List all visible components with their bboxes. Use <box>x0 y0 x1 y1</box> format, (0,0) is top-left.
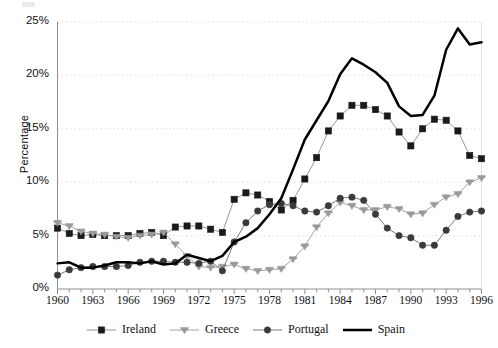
data-point <box>384 113 390 119</box>
x-tick-label: 1996 <box>462 294 498 306</box>
x-tick-label: 1978 <box>250 294 290 306</box>
data-point <box>243 220 249 226</box>
data-point <box>419 242 425 248</box>
data-point <box>396 232 402 238</box>
data-point <box>420 126 426 132</box>
x-tick-label: 1972 <box>179 294 219 306</box>
x-tick-label: 1981 <box>285 294 325 306</box>
x-tick-label: 1987 <box>356 294 396 306</box>
data-point <box>442 195 450 201</box>
data-point <box>172 224 178 230</box>
data-point <box>278 207 284 213</box>
data-point <box>325 128 331 134</box>
y-tick-label: 15% <box>5 121 49 133</box>
legend-swatch-spain <box>342 324 373 336</box>
x-tick-label: 1990 <box>391 294 431 306</box>
data-point <box>290 202 296 208</box>
y-tick-label: 5% <box>5 228 49 240</box>
data-point <box>313 209 319 215</box>
data-point <box>408 235 414 241</box>
data-point <box>180 327 188 333</box>
x-tick-label: 1960 <box>38 294 78 306</box>
data-point <box>243 190 249 196</box>
legend-swatch-greece <box>169 324 200 336</box>
legend-swatch-ireland <box>86 324 117 336</box>
data-point <box>395 206 403 212</box>
y-tick-label: 20% <box>5 67 49 79</box>
data-point <box>66 230 72 236</box>
data-point <box>431 116 437 122</box>
legend-label: Spain <box>377 322 405 337</box>
data-point <box>408 143 414 149</box>
data-point <box>302 176 308 182</box>
legend-item-portugal[interactable]: Portugal <box>252 322 329 337</box>
data-point <box>313 225 321 231</box>
data-point <box>384 225 390 231</box>
x-tick-label: 1993 <box>426 294 466 306</box>
data-point <box>255 208 261 214</box>
series-spain <box>58 28 482 267</box>
data-point <box>396 129 402 135</box>
data-point <box>266 201 272 207</box>
data-point <box>255 192 261 198</box>
data-point <box>254 268 262 274</box>
data-point <box>361 102 367 108</box>
legend-item-spain[interactable]: Spain <box>342 322 405 337</box>
legend-label: Portugal <box>287 322 329 337</box>
data-point <box>407 212 415 218</box>
data-point <box>478 156 484 162</box>
x-tick-label: 1969 <box>144 294 184 306</box>
data-point <box>372 211 378 217</box>
y-tick-label: 0% <box>5 281 49 293</box>
legend-label: Ireland <box>121 322 156 337</box>
x-tick-label: 1966 <box>108 294 148 306</box>
series-line <box>58 178 482 271</box>
data-point <box>431 242 437 248</box>
x-tick-label: 1963 <box>73 294 113 306</box>
data-point <box>337 113 343 119</box>
data-point <box>455 213 461 219</box>
data-point <box>208 226 214 232</box>
data-point <box>54 272 60 278</box>
x-tick-label: 1984 <box>320 294 360 306</box>
data-point <box>455 128 461 134</box>
chart-legend: IrelandGreecePortugalSpain <box>0 322 491 337</box>
data-point <box>467 152 473 158</box>
data-point <box>478 208 484 214</box>
data-point <box>113 263 119 269</box>
data-point <box>443 227 449 233</box>
data-point <box>337 195 343 201</box>
data-point <box>430 202 438 208</box>
data-point <box>231 196 237 202</box>
data-point <box>65 224 73 230</box>
data-point <box>264 326 270 332</box>
data-point <box>302 208 308 214</box>
data-point <box>207 265 215 271</box>
series-greece <box>53 176 485 275</box>
data-point <box>98 326 104 332</box>
data-point <box>349 194 355 200</box>
axis-lines <box>58 22 482 289</box>
data-point <box>196 223 202 229</box>
data-point <box>314 155 320 161</box>
data-point <box>184 259 190 265</box>
data-point <box>467 209 473 215</box>
legend-item-ireland[interactable]: Ireland <box>86 322 156 337</box>
y-tick-label: 25% <box>5 14 49 26</box>
data-point <box>325 202 331 208</box>
data-point <box>196 260 202 266</box>
x-tick-label: 1975 <box>214 294 254 306</box>
data-point <box>372 106 378 112</box>
y-tick-label: 10% <box>5 174 49 186</box>
legend-label: Greece <box>204 322 239 337</box>
data-point <box>349 102 355 108</box>
data-point <box>184 223 190 229</box>
data-point <box>66 267 72 273</box>
series-line <box>58 28 482 267</box>
data-point <box>219 268 225 274</box>
series-ireland <box>54 102 484 238</box>
legend-item-greece[interactable]: Greece <box>169 322 239 337</box>
data-point <box>443 117 449 123</box>
data-point <box>360 208 368 214</box>
